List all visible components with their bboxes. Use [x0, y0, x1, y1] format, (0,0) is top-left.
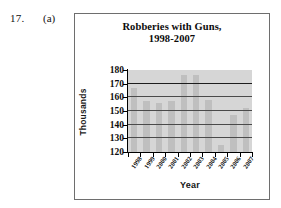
x-tick-mark	[190, 153, 191, 157]
x-tick-label: 2001	[167, 155, 180, 170]
x-tick-mark	[202, 153, 203, 157]
chart-title: Robberies with Guns, 1998-2007	[75, 21, 269, 45]
exercise-part-label: (a)	[43, 12, 55, 24]
x-axis-tick-labels: 1998199920002001200220032004200520062007	[128, 155, 252, 179]
chart-title-line-2: 1998-2007	[75, 33, 269, 45]
plot-area	[128, 70, 252, 152]
y-tick-label: 160	[96, 93, 124, 102]
y-tick-mark	[123, 84, 128, 85]
y-tick-mark	[123, 125, 128, 126]
y-axis-tick-labels: 180170160150140130120	[96, 70, 124, 160]
bar	[181, 75, 187, 152]
x-tick-mark	[153, 153, 154, 157]
x-tick-mark	[128, 153, 129, 157]
x-tick-mark	[240, 153, 241, 157]
gridline	[128, 96, 252, 97]
x-tick-mark	[165, 153, 166, 157]
x-tick-mark	[227, 153, 228, 157]
gridline	[128, 137, 252, 138]
y-tick-mark	[123, 70, 128, 71]
y-tick-label: 120	[96, 148, 124, 157]
bar	[218, 145, 224, 152]
y-tick-label: 170	[96, 80, 124, 89]
x-tick-mark	[140, 153, 141, 157]
bar	[131, 88, 137, 152]
y-tick-mark	[123, 97, 128, 98]
bar	[230, 115, 236, 152]
x-axis-title: Year	[128, 180, 252, 190]
y-tick-mark	[123, 138, 128, 139]
x-tick-label: 2002	[179, 155, 192, 170]
chart-title-line-1: Robberies with Guns,	[75, 21, 269, 33]
x-tick-label: 2000	[155, 155, 168, 170]
gridline	[128, 110, 252, 111]
x-tick-mark	[178, 153, 179, 157]
y-tick-label: 150	[96, 107, 124, 116]
x-tick-label: 1999	[142, 155, 155, 170]
gridline	[128, 124, 252, 125]
y-tick-mark	[123, 111, 128, 112]
bar	[243, 108, 249, 152]
y-tick-label: 130	[96, 134, 124, 143]
bar	[205, 100, 211, 152]
x-tick-label: 1998	[130, 155, 143, 170]
y-axis-title: Thousands	[77, 72, 89, 152]
y-tick-label: 180	[96, 66, 124, 75]
x-tick-label: 2003	[192, 155, 205, 170]
x-tick-label: 2004	[204, 155, 217, 170]
bar	[193, 75, 199, 152]
y-tick-label: 140	[96, 121, 124, 130]
exercise-number: 17.	[10, 12, 24, 24]
x-tick-label: 2005	[217, 155, 230, 170]
x-tick-mark	[252, 153, 253, 157]
gridline	[128, 83, 252, 84]
x-tick-mark	[215, 153, 216, 157]
x-tick-label: 2006	[229, 155, 242, 170]
y-axis-title-text: Thousands	[78, 88, 88, 135]
